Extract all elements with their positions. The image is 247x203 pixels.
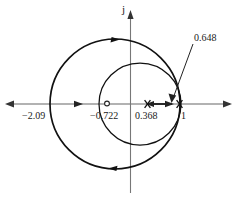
label-breakaway-right: 0.648 <box>194 33 217 43</box>
callout-arrow-icon <box>169 94 177 103</box>
segment-arrow-right-icon <box>165 101 174 107</box>
real-axis <box>5 101 232 108</box>
zero-marker <box>105 101 110 106</box>
root-locus-figure: j −2.09 −0.722 0.368 1 0.648 <box>0 0 247 203</box>
label-zero-real: −0.722 <box>90 111 118 121</box>
label-pole-left: 0.368 <box>135 111 158 121</box>
imaginary-axis-label: j <box>122 4 125 15</box>
real-axis-left-arrow-icon <box>5 101 14 108</box>
locus-direction-arrow-top-icon <box>111 37 121 42</box>
locus-direction-arrow-bottom-icon <box>108 166 118 171</box>
imaginary-axis <box>127 10 133 193</box>
real-axis-locus-segment <box>146 101 174 107</box>
label-pole-right: 1 <box>181 111 186 121</box>
real-axis-locus-arrow-icon <box>74 101 83 107</box>
label-breakaway-left: −2.09 <box>22 111 45 121</box>
imaginary-axis-up-arrow-icon <box>127 10 133 19</box>
root-locus-plot-svg <box>0 0 247 203</box>
real-axis-right-arrow-icon <box>223 101 232 108</box>
